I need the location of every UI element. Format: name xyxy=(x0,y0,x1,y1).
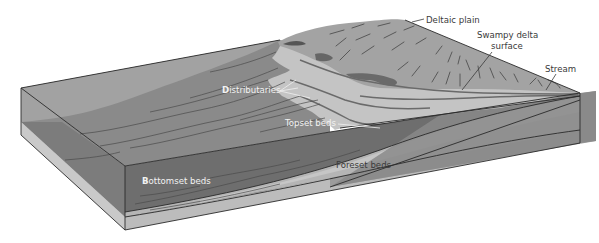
label-swampy-line2: surface xyxy=(491,41,523,51)
label-distributaries-initial: D xyxy=(222,85,229,95)
label-foreset-beds-text: Foreset beds xyxy=(336,160,392,170)
label-topset-beds-text: Topset beds xyxy=(284,118,337,128)
label-distributaries-text: Distributaries xyxy=(222,85,281,95)
label-swampy-line1: Swampy delta xyxy=(477,30,538,40)
label-bottomset-beds-text: Bottomset beds xyxy=(142,176,211,186)
label-deltaic-plain-text: Deltaic plain xyxy=(426,15,480,25)
label-bottomset-beds: Bottomset beds xyxy=(142,176,211,186)
label-stream-text: Stream xyxy=(545,64,576,74)
label-bottomset-rest: ottomset beds xyxy=(149,176,212,186)
label-distributaries-rest: istributaries xyxy=(229,85,281,95)
label-deltaic-plain: Deltaic plain xyxy=(412,15,480,25)
delta-block-diagram: Deltaic plain Swampy delta surface Strea… xyxy=(0,0,599,243)
label-foreset-beds: Foreset beds xyxy=(336,160,392,170)
